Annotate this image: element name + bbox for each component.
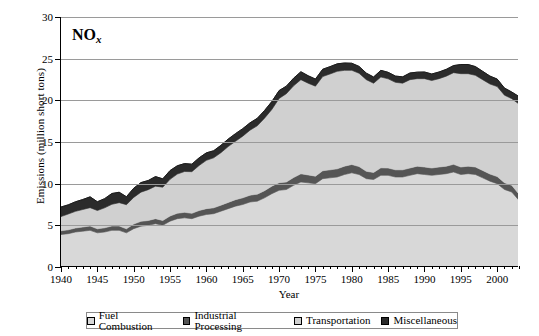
y-tick-label: 10	[42, 178, 53, 189]
x-tick-label: 1955	[159, 274, 181, 285]
x-tick-minor	[199, 266, 200, 269]
legend-label: Transportation	[306, 315, 370, 326]
x-tick-minor	[163, 266, 164, 269]
x-tick-minor	[156, 266, 157, 269]
y-tick	[55, 59, 61, 60]
x-tick-major	[134, 266, 135, 272]
x-tick-major	[497, 266, 498, 272]
x-tick-minor	[301, 266, 302, 269]
x-tick-label: 2000	[486, 274, 508, 285]
x-tick-label: 1985	[377, 274, 399, 285]
x-tick-minor	[483, 266, 484, 269]
x-tick-minor	[177, 266, 178, 269]
gridline	[61, 184, 518, 185]
x-tick-minor	[105, 266, 106, 269]
x-tick-minor	[519, 266, 520, 269]
chart-title-subscript: x	[96, 33, 102, 45]
legend-item[interactable]: Transportation	[294, 315, 370, 326]
x-tick-major	[315, 266, 316, 272]
x-tick-minor	[221, 266, 222, 269]
y-tick-label: 20	[42, 95, 53, 106]
x-tick-minor	[83, 266, 84, 269]
chart-title-base: NO	[72, 26, 96, 43]
x-tick-major	[170, 266, 171, 272]
x-tick-minor	[417, 266, 418, 269]
x-tick-minor	[286, 266, 287, 269]
x-tick-minor	[272, 266, 273, 269]
x-tick-label: 1940	[50, 274, 72, 285]
x-tick-minor	[446, 266, 447, 269]
y-tick-label: 0	[48, 262, 54, 273]
x-tick-label: 1945	[86, 274, 108, 285]
y-tick	[55, 225, 61, 226]
x-tick-minor	[468, 266, 469, 269]
gridline	[61, 100, 518, 101]
x-tick-minor	[90, 266, 91, 269]
x-tick-minor	[359, 266, 360, 269]
legend-label: Miscellaneous	[393, 315, 457, 326]
x-tick-minor	[323, 266, 324, 269]
x-tick-minor	[308, 266, 309, 269]
x-tick-minor	[112, 266, 113, 269]
x-tick-minor	[345, 266, 346, 269]
x-tick-minor	[381, 266, 382, 269]
x-tick-minor	[374, 266, 375, 269]
y-tick	[55, 142, 61, 143]
x-tick-minor	[235, 266, 236, 269]
gridline	[61, 225, 518, 226]
legend-item[interactable]: Industrial Processing	[183, 310, 283, 332]
x-tick-label: 1975	[304, 274, 326, 285]
x-tick-minor	[185, 266, 186, 269]
plot-inner	[61, 17, 518, 266]
y-tick-label: 25	[42, 53, 53, 64]
x-tick-major	[352, 266, 353, 272]
y-tick	[55, 17, 61, 18]
x-tick-minor	[257, 266, 258, 269]
x-tick-minor	[439, 266, 440, 269]
x-tick-minor	[265, 266, 266, 269]
legend-label: Fuel Combustion	[99, 310, 172, 332]
x-tick-major	[61, 266, 62, 272]
x-tick-minor	[395, 266, 396, 269]
plot-area: 051015202530 194019451950195519601965197…	[60, 17, 518, 267]
x-tick-label: 1965	[232, 274, 254, 285]
x-tick-minor	[475, 266, 476, 269]
legend-swatch-icon	[381, 317, 389, 325]
x-tick-major	[243, 266, 244, 272]
legend-item[interactable]: Fuel Combustion	[87, 310, 172, 332]
x-tick-minor	[119, 266, 120, 269]
x-tick-major	[424, 266, 425, 272]
x-tick-minor	[76, 266, 77, 269]
x-tick-minor	[410, 266, 411, 269]
legend-label: Industrial Processing	[194, 310, 283, 332]
x-tick-minor	[68, 266, 69, 269]
x-tick-minor	[366, 266, 367, 269]
x-tick-minor	[454, 266, 455, 269]
y-tick-label: 30	[42, 12, 53, 23]
x-tick-minor	[512, 266, 513, 269]
x-tick-major	[461, 266, 462, 272]
x-tick-minor	[214, 266, 215, 269]
chart-title: NOx	[72, 26, 102, 45]
x-tick-minor	[192, 266, 193, 269]
y-tick	[55, 184, 61, 185]
x-tick-minor	[330, 266, 331, 269]
x-tick-major	[206, 266, 207, 272]
x-tick-label: 1950	[123, 274, 145, 285]
x-tick-label: 1990	[413, 274, 435, 285]
y-tick-label: 5	[48, 220, 54, 231]
x-tick-major	[388, 266, 389, 272]
x-tick-minor	[228, 266, 229, 269]
x-tick-major	[279, 266, 280, 272]
x-tick-minor	[504, 266, 505, 269]
legend-swatch-icon	[294, 317, 302, 325]
x-tick-minor	[432, 266, 433, 269]
legend-item[interactable]: Miscellaneous	[381, 315, 457, 326]
gridline	[61, 17, 518, 18]
x-tick-minor	[126, 266, 127, 269]
legend-swatch-icon	[183, 317, 191, 325]
gridline	[61, 142, 518, 143]
x-tick-label: 1980	[341, 274, 363, 285]
x-tick-minor	[294, 266, 295, 269]
x-tick-label: 1995	[450, 274, 472, 285]
